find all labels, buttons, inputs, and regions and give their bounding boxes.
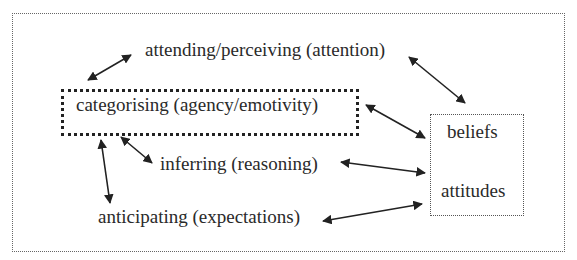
arrows-layer bbox=[0, 0, 577, 260]
arrow-attending-categorising bbox=[88, 55, 131, 80]
arrow-categorising-beliefs bbox=[366, 105, 425, 138]
arrow-anticipating-beliefs bbox=[323, 204, 422, 221]
arrow-attending-beliefs bbox=[409, 57, 465, 103]
arrow-inferring-beliefs bbox=[341, 162, 425, 173]
arrow-categorising-inferring bbox=[121, 137, 152, 163]
arrow-categorising-anticipating bbox=[101, 140, 110, 203]
